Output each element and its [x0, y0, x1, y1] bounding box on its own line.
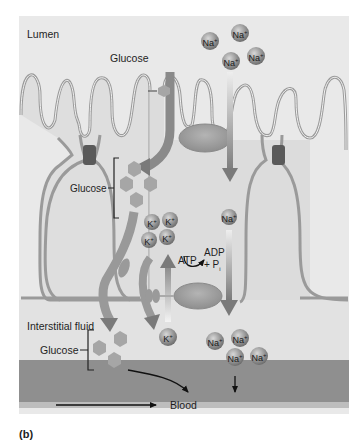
- sodium-potassium-pump: [174, 283, 222, 309]
- sodium-glucose-symporter: [179, 124, 231, 152]
- right-tight-junction: [272, 145, 285, 165]
- label-blood: Blood: [170, 400, 197, 411]
- label-lumen: Lumen: [27, 29, 59, 40]
- sodium-entry-arrow-shaft: [227, 72, 233, 172]
- label-pi: + Pi: [204, 260, 221, 272]
- potassium-entry-arrow-shaft: [165, 266, 171, 322]
- sodium-ion-label: Na+: [230, 334, 250, 345]
- potassium-ion-label: K+: [158, 333, 178, 344]
- left-tight-junction: [83, 145, 96, 165]
- potassium-ion-label: K+: [157, 233, 177, 244]
- sodium-ion-label: Na+: [230, 29, 250, 40]
- potassium-channel: [145, 289, 153, 303]
- blood-vessel: [19, 360, 349, 402]
- sodium-exit-arrow-shaft: [226, 230, 232, 300]
- label-glucose-interstitial: Glucose: [40, 345, 79, 356]
- sodium-ion-label: Na+: [205, 337, 225, 348]
- label-interstitial-fluid: Interstitial fluid: [27, 321, 94, 332]
- potassium-ion-label: K+: [139, 236, 159, 247]
- figure-label: (b): [19, 428, 33, 440]
- sodium-ion-label: Na+: [225, 353, 245, 364]
- label-atp: ATP: [178, 256, 197, 266]
- sodium-ion-label: Na+: [221, 57, 241, 68]
- potassium-ion-label: K+: [142, 218, 162, 229]
- sodium-ion-label: Na+: [249, 352, 269, 363]
- label-glucose-lumen: Glucose: [110, 53, 149, 64]
- sodium-ion-label: Na+: [246, 52, 266, 63]
- potassium-ion-label: K+: [160, 216, 180, 227]
- label-glucose-intracellular: Glucose: [70, 184, 107, 194]
- sodium-ion-label: Na+: [219, 213, 239, 224]
- diagram-canvas: Lumen Glucose Glucose Interstitial fluid…: [0, 0, 357, 447]
- sodium-ion-label: Na+: [200, 37, 220, 48]
- label-adp: ADP: [204, 248, 225, 258]
